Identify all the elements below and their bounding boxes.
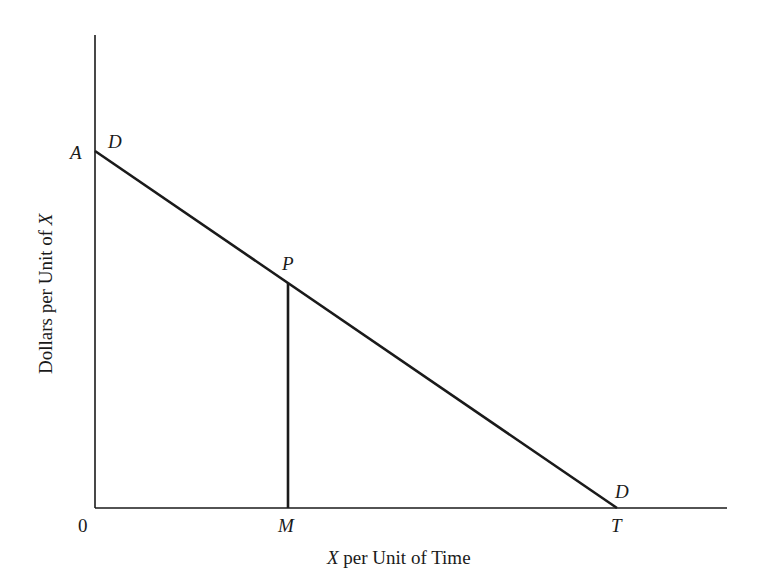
label-a: A bbox=[68, 142, 82, 163]
label-p: P bbox=[281, 253, 294, 274]
label-d-top: D bbox=[107, 131, 122, 152]
demand-diagram: A D P D 0 M T X per Unit of Time Dollars… bbox=[0, 0, 757, 568]
label-m: M bbox=[277, 515, 295, 536]
y-axis-title: Dollars per Unit of X bbox=[35, 212, 56, 374]
x-axis-title: X per Unit of Time bbox=[326, 547, 471, 568]
demand-curve bbox=[95, 151, 617, 508]
label-t: T bbox=[611, 515, 623, 536]
origin-label: 0 bbox=[78, 515, 88, 536]
label-d-bottom: D bbox=[614, 481, 629, 502]
